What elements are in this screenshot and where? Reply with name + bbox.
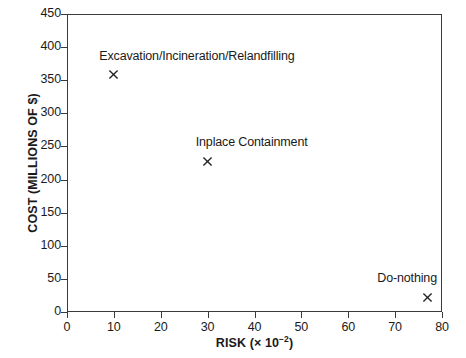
x-tick-mark bbox=[442, 312, 443, 318]
y-tick-mark bbox=[61, 180, 67, 181]
y-tick-mark bbox=[61, 213, 67, 214]
x-axis-title-tail: ) bbox=[289, 336, 293, 350]
y-axis-title: COST (MILLIONS OF $) bbox=[26, 33, 40, 293]
data-point-label: Excavation/Incineration/Relandfilling bbox=[99, 49, 294, 63]
y-tick-mark bbox=[61, 47, 67, 48]
x-axis-title: RISK (× 10−2) bbox=[67, 336, 442, 350]
y-tick-label-wrap: 0 bbox=[0, 305, 61, 318]
y-tick-mark bbox=[61, 113, 67, 114]
x-tick-label: 60 bbox=[328, 320, 368, 334]
x-tick-mark bbox=[67, 312, 68, 318]
x-tick-label: 0 bbox=[47, 320, 87, 334]
x-tick-label: 10 bbox=[94, 320, 134, 334]
x-axis-title-exponent: −2 bbox=[279, 334, 289, 344]
x-tick-label: 80 bbox=[422, 320, 462, 334]
scatter-chart: 050100150200250300350400450 010203040506… bbox=[0, 0, 466, 358]
y-tick-label-wrap: 450 bbox=[0, 7, 61, 20]
x-tick-mark bbox=[114, 312, 115, 318]
x-tick-label: 30 bbox=[188, 320, 228, 334]
data-point-marker bbox=[202, 156, 213, 167]
x-tick-mark bbox=[301, 312, 302, 318]
x-tick-mark bbox=[395, 312, 396, 318]
y-tick-mark bbox=[61, 14, 67, 15]
x-tick-label: 50 bbox=[281, 320, 321, 334]
x-tick-label: 70 bbox=[375, 320, 415, 334]
x-tick-mark bbox=[348, 312, 349, 318]
y-tick-label: 0 bbox=[9, 305, 61, 318]
x-tick-label: 20 bbox=[141, 320, 181, 334]
x-tick-mark bbox=[208, 312, 209, 318]
x-tick-label: 40 bbox=[235, 320, 275, 334]
data-point-marker bbox=[108, 69, 119, 80]
data-point-label: Inplace Containment bbox=[196, 135, 308, 149]
y-tick-mark bbox=[61, 146, 67, 147]
data-point-label: Do-nothing bbox=[377, 271, 437, 285]
x-tick-mark bbox=[161, 312, 162, 318]
y-tick-mark bbox=[61, 279, 67, 280]
data-point-marker bbox=[422, 292, 433, 303]
x-tick-mark bbox=[255, 312, 256, 318]
y-tick-label: 450 bbox=[9, 7, 61, 20]
x-axis-title-main: RISK (× 10 bbox=[216, 336, 279, 350]
y-tick-mark bbox=[61, 80, 67, 81]
y-tick-mark bbox=[61, 246, 67, 247]
